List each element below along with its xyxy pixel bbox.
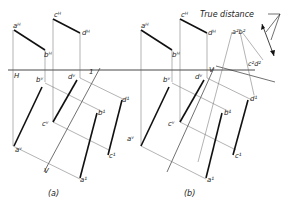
label-c-front-b: cᵛ	[168, 120, 175, 128]
label-c-aux-b: c¹	[235, 152, 242, 160]
label-a-front-b: aᵛ	[127, 135, 134, 143]
label-b-aux: b¹	[98, 109, 105, 117]
label-v-aux: V	[44, 167, 50, 175]
fold-line-2	[216, 66, 275, 82]
descriptive-geometry-figure: aᴴ bᴴ cᴴ dᴴ H bᵛ dᵛ 1 d¹ b¹ cᵛ aᵛ c¹ V a…	[0, 0, 290, 203]
true-distance-label: True distance	[200, 10, 254, 19]
label-b-top: bᴴ	[44, 51, 52, 59]
label-d-top: dᴴ	[82, 29, 90, 37]
label-c-top-b: cᴴ	[181, 11, 189, 19]
label-1: 1	[89, 68, 93, 76]
line-ab-front	[14, 87, 42, 146]
label-d-aux-b: d¹	[250, 95, 257, 103]
label-c-front: cᵛ	[42, 120, 49, 128]
label-b-front: bᵛ	[36, 76, 43, 84]
label-c2d2: c²d²	[248, 60, 261, 68]
label-b-top-b: bᴴ	[172, 51, 180, 59]
line-cd-front	[53, 80, 77, 122]
label-a-top: aᴴ	[13, 22, 21, 30]
label-d-aux: d¹	[122, 96, 129, 104]
label-a-top-b: aᴴ	[141, 22, 149, 30]
label-d-front: dᵛ	[68, 73, 75, 81]
label-h: H	[14, 72, 20, 80]
line-ab-top	[14, 30, 45, 50]
label-a-aux: a¹	[80, 176, 87, 184]
label-a2b2: a²b²	[232, 28, 246, 36]
label-d-top-b: dᴴ	[208, 29, 216, 37]
line-ab-aux	[80, 113, 97, 178]
label-b-front-b: bᵛ	[163, 76, 170, 84]
label-d-front-b: dᵛ	[195, 73, 202, 81]
line-cd-aux	[108, 100, 122, 155]
panel-b: aᴴ bᴴ cᴴ dᴴ True distance a²b² c²d² V bᵛ…	[127, 10, 280, 198]
caption-b: (b)	[184, 189, 195, 198]
label-b-aux-b: b¹	[224, 109, 231, 117]
label-a-aux-b: a¹	[207, 176, 214, 184]
label-c-aux: c¹	[109, 152, 116, 160]
caption-a: (a)	[48, 189, 59, 198]
line-cd-top	[53, 19, 80, 33]
label-c-top: cᴴ	[54, 11, 62, 19]
panel-a: aᴴ bᴴ cᴴ dᴴ H bᵛ dᵛ 1 d¹ b¹ cᵛ aᵛ c¹ V a…	[13, 11, 129, 198]
label-a-front: aᵛ	[15, 146, 22, 154]
